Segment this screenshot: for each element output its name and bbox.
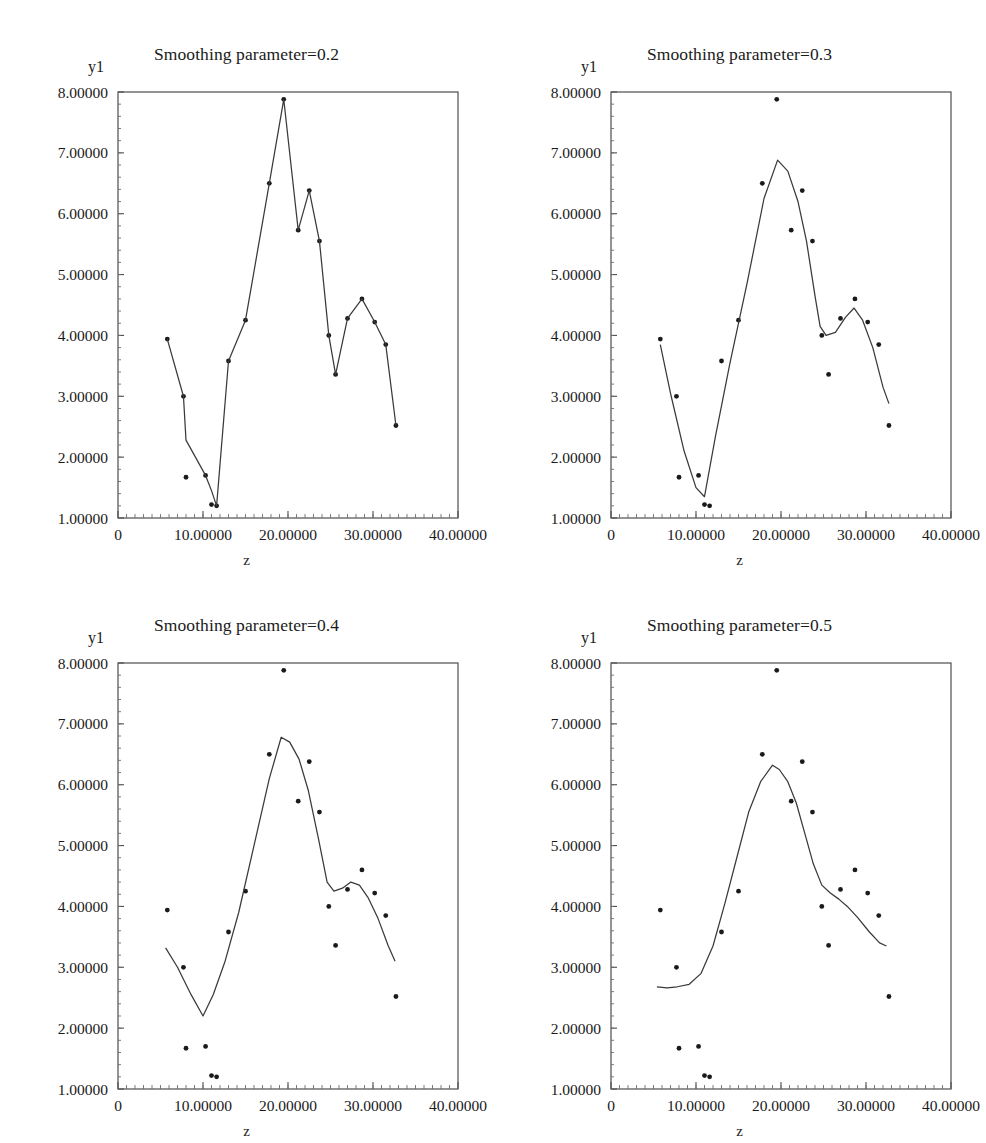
y-tick-label: 7.00000 [58,715,109,732]
data-point [658,908,663,913]
data-point [810,810,815,815]
x-tick-label: 40.00000 [429,1097,487,1114]
data-point [876,913,881,918]
data-point [719,359,724,364]
x-tick-label: 30.00000 [837,526,895,543]
data-point [360,868,365,873]
data-point [887,994,892,999]
data-point [887,423,892,428]
x-tick-label: 40.00000 [922,1097,980,1114]
y-tick-label: 8.00000 [551,84,602,101]
data-point [838,887,843,892]
data-point [214,1074,219,1079]
data-point [184,1046,189,1051]
data-point [774,97,779,102]
y-tick-label: 3.00000 [58,388,109,405]
smooth-curve [657,765,887,988]
panel-smoothing-0-5: Smoothing parameter=0.5 y1 1.000002.0000… [493,571,986,1142]
y-tick-label: 4.00000 [58,327,109,344]
y-tick-label: 2.00000 [551,1020,602,1037]
data-point [760,752,765,757]
data-point [677,1046,682,1051]
smooth-curve [167,99,396,506]
data-point [876,342,881,347]
data-point [383,913,388,918]
plot-frame [611,663,951,1089]
smooth-curve [660,160,889,497]
figure-grid: Smoothing parameter=0.2 y1 1.000002.0000… [0,0,986,1143]
y-tick-label: 1.00000 [58,510,109,527]
data-point [774,668,779,673]
data-point [281,668,286,673]
y-tick-label: 1.00000 [58,1081,109,1098]
data-point [826,372,831,377]
x-tick-label: 10.00000 [667,526,725,543]
x-tick-label: 0 [114,526,122,543]
y-tick-label: 7.00000 [551,715,602,732]
x-tick-label: 40.00000 [922,526,980,543]
data-point [674,965,679,970]
data-point [800,188,805,193]
y-tick-label: 4.00000 [551,327,602,344]
data-point [865,891,870,896]
x-tick-label: 20.00000 [752,526,810,543]
data-point [826,943,831,948]
y-tick-label: 6.00000 [551,205,602,222]
smooth-curve [166,737,396,1016]
data-point [394,994,399,999]
data-point [853,868,858,873]
data-point [865,320,870,325]
data-point [267,752,272,757]
data-point [184,475,189,480]
plot-frame [611,92,951,518]
y-tick-label: 3.00000 [58,959,109,976]
y-tick-label: 6.00000 [551,776,602,793]
x-tick-label: 0 [114,1097,122,1114]
data-point [707,1074,712,1079]
y-tick-label: 1.00000 [551,1081,602,1098]
plot-canvas-3: 1.000002.000003.000004.000005.000006.000… [493,571,986,1142]
data-point [658,337,663,342]
data-point [719,930,724,935]
data-point [372,891,377,896]
x-tick-label: 0 [607,526,615,543]
y-tick-label: 6.00000 [58,776,109,793]
y-tick-label: 7.00000 [551,144,602,161]
x-tick-label: 20.00000 [752,1097,810,1114]
data-point [789,799,794,804]
x-tick-label: 0 [607,1097,615,1114]
data-point [317,810,322,815]
data-point [165,908,170,913]
data-point [345,887,350,892]
data-point [209,1073,214,1078]
x-tick-label: 40.00000 [429,526,487,543]
data-point [181,965,186,970]
plot-canvas-1: 1.000002.000003.000004.000005.000006.000… [493,0,986,571]
data-point [819,333,824,338]
plot-frame [118,92,458,518]
y-tick-label: 8.00000 [551,655,602,672]
y-tick-label: 4.00000 [58,898,109,915]
x-tick-label: 10.00000 [174,526,232,543]
x-axis-label: z [0,552,493,569]
x-tick-label: 30.00000 [837,1097,895,1114]
data-point [326,904,331,909]
panel-smoothing-0-3: Smoothing parameter=0.3 y1 1.000002.0000… [493,0,986,571]
data-point [736,889,741,894]
panel-smoothing-0-2: Smoothing parameter=0.2 y1 1.000002.0000… [0,0,493,571]
y-tick-label: 2.00000 [58,449,109,466]
data-point [209,502,214,507]
data-point [696,473,701,478]
data-point [674,394,679,399]
x-axis-label: z [0,1123,493,1140]
y-tick-label: 8.00000 [58,655,109,672]
data-point [707,503,712,508]
y-tick-label: 5.00000 [551,266,602,283]
y-tick-label: 5.00000 [58,837,109,854]
data-point [696,1044,701,1049]
data-point [203,1044,208,1049]
x-tick-label: 30.00000 [344,1097,402,1114]
x-tick-label: 10.00000 [174,1097,232,1114]
x-axis-label: z [493,1123,986,1140]
y-tick-label: 2.00000 [551,449,602,466]
